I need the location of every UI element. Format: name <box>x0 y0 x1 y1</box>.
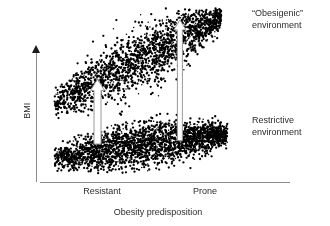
x-axis-line <box>40 182 290 183</box>
x-tick-label-prone: Prone <box>175 186 235 198</box>
y-axis-arrow-icon <box>32 45 40 53</box>
y-axis-title: BMI <box>22 81 34 141</box>
x-tick-label-resistant: Resistant <box>62 186 142 198</box>
x-axis-title: Obesity predisposition <box>78 207 238 219</box>
y-axis-line <box>36 52 37 182</box>
annotation-restrictive-environment: Restrictive environment <box>252 115 328 138</box>
scatter-plot-canvas <box>0 0 330 226</box>
annotation-obesigenic-environment: “Obesigenic” environment <box>252 8 328 31</box>
obesity-predisposition-figure: BMI Obesity predisposition Resistant Pro… <box>0 0 330 226</box>
